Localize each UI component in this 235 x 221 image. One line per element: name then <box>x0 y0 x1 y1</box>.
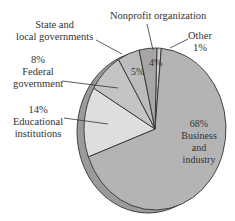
label-business: 68% Business and industry <box>176 118 222 166</box>
label-other-pct: 1% <box>188 42 212 54</box>
label-business-pct: 68% <box>176 118 222 130</box>
label-state-line2: local governments <box>16 31 93 43</box>
label-educational-line1: Educational <box>10 116 66 128</box>
label-nonprofit-pct-text: 4% <box>149 57 162 68</box>
label-nonprofit: Nonprofit organization <box>110 10 206 22</box>
label-other: Other 1% <box>188 30 212 54</box>
label-nonprofit-name: Nonprofit organization <box>110 10 206 21</box>
label-state: State and local governments <box>16 19 93 43</box>
label-state-pct: 5% <box>131 66 144 78</box>
label-federal-line1: Federal <box>8 66 68 78</box>
label-federal: 8% Federal government <box>8 54 68 90</box>
label-nonprofit-pct: 4% <box>149 57 162 69</box>
label-other-name: Other <box>188 30 212 42</box>
label-state-line1: State and <box>16 19 93 31</box>
label-federal-line2: government <box>8 78 68 90</box>
label-educational-pct: 14% <box>10 104 66 116</box>
leader-state <box>96 40 122 54</box>
label-business-line2: and <box>176 142 222 154</box>
label-state-pct-text: 5% <box>131 66 144 77</box>
label-federal-pct: 8% <box>8 54 68 66</box>
label-educational: 14% Educational institutions <box>10 104 66 140</box>
label-business-line1: Business <box>176 130 222 142</box>
label-business-line3: industry <box>176 154 222 166</box>
leader-nonprofit <box>147 24 153 50</box>
label-educational-line2: institutions <box>10 128 66 140</box>
leader-other <box>170 39 188 48</box>
